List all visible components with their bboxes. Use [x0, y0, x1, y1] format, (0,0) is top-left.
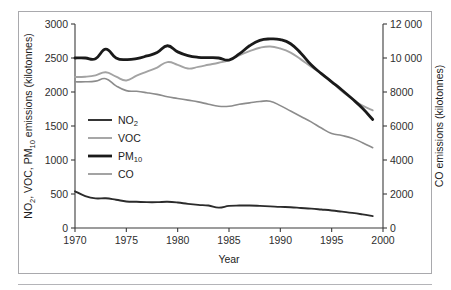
y-right-tick-label: 12 000: [390, 18, 422, 30]
x-tick-label: 1995: [320, 234, 344, 246]
x-tick-label: 1970: [63, 234, 87, 246]
x-tick-label: 1985: [217, 234, 241, 246]
y-left-tick-label: 500: [50, 188, 68, 200]
data-series-group: [75, 39, 373, 216]
y-right-tick-label: 10 000: [390, 52, 422, 64]
y-left-tick-label: 3000: [45, 18, 69, 30]
y-axis-right-title: CO emissions (kilotonnes): [433, 65, 445, 188]
x-axis-ticks: 1970197519801985199019952000: [63, 228, 395, 246]
x-axis-title: Year: [218, 253, 240, 265]
emissions-line-chart: 050010001500200025003000 020004000600080…: [0, 0, 451, 290]
y-right-tick-label: 0: [390, 222, 396, 234]
y-axis-right-ticks: 0200040006000800010 00012 000: [383, 18, 422, 234]
x-tick-label: 1975: [115, 234, 139, 246]
y-right-tick-label: 6000: [390, 120, 414, 132]
y-axis-left-ticks: 050010001500200025003000: [45, 18, 75, 234]
y-left-tick-label: 1000: [45, 154, 69, 166]
legend-label-co: CO: [118, 168, 134, 180]
y-right-tick-label: 8000: [390, 86, 414, 98]
y-right-tick-label: 2000: [390, 188, 414, 200]
legend-label-voc: VOC: [118, 132, 141, 144]
y-axis-left-title: NO2, VOC, PM10 emissions (kilotonnes): [22, 33, 37, 218]
legend-label-pm10: PM10: [118, 150, 142, 165]
x-tick-label: 2000: [371, 234, 395, 246]
chart-legend: NO2VOCPM10CO: [88, 114, 142, 180]
y-left-tick-label: 2000: [45, 86, 69, 98]
y-left-tick-label: 0: [62, 222, 68, 234]
series-line-no2: [75, 191, 373, 216]
y-axis-left-title-text: NO2, VOC, PM10 emissions (kilotonnes): [22, 33, 37, 218]
legend-label-no2: NO2: [118, 114, 138, 129]
y-left-tick-label: 2500: [45, 52, 69, 64]
x-tick-label: 1990: [269, 234, 293, 246]
y-left-tick-label: 1500: [45, 120, 69, 132]
chart-svg: 050010001500200025003000 020004000600080…: [0, 0, 451, 290]
y-right-tick-label: 4000: [390, 154, 414, 166]
x-tick-label: 1980: [166, 234, 190, 246]
plot-axes: [75, 24, 383, 228]
